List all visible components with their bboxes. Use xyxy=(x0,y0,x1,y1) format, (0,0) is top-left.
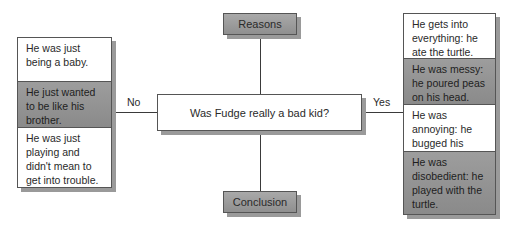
question-text: Was Fudge really a bad kid? xyxy=(190,107,329,119)
connector-left xyxy=(112,112,157,113)
reasons-label: Reasons xyxy=(238,18,281,30)
right-item-2: He was messy: he poured peas on his head… xyxy=(404,58,495,104)
right-item-4: He was disobedient: he played with the t… xyxy=(404,151,495,214)
reasons-box: Reasons xyxy=(223,13,297,35)
left-panel: He was just being a baby. He just wanted… xyxy=(17,37,112,188)
question-box: Was Fudge really a bad kid? xyxy=(157,94,362,131)
right-panel: He gets into everything: he ate the turt… xyxy=(403,13,496,215)
left-item-1: He was just being a baby. xyxy=(18,38,111,81)
right-item-1: He gets into everything: he ate the turt… xyxy=(404,14,495,58)
connector-top xyxy=(260,35,261,94)
left-item-2: He just wanted to be like his brother. xyxy=(18,81,111,127)
connector-bottom xyxy=(260,131,261,191)
conclusion-box: Conclusion xyxy=(223,191,297,213)
conclusion-label: Conclusion xyxy=(233,196,287,208)
edge-label-yes: Yes xyxy=(373,96,390,108)
left-item-3: He was just playing and didn't mean to g… xyxy=(18,127,111,187)
edge-label-no: No xyxy=(127,96,140,108)
right-item-3: He was annoying: he bugged his brother a… xyxy=(404,104,495,151)
connector-right xyxy=(362,112,403,113)
